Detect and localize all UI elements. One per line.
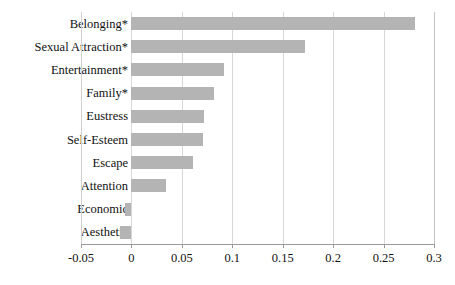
bar [131, 17, 414, 30]
axis-tick [81, 244, 82, 248]
bar-row [81, 128, 434, 151]
bar-row [81, 174, 434, 197]
bar-row [81, 198, 434, 221]
bar-row [81, 151, 434, 174]
bar-row [81, 105, 434, 128]
bar-row [81, 82, 434, 105]
bar [131, 87, 214, 100]
bar-row [81, 12, 434, 35]
x-tick-label: 0.1 [224, 250, 240, 266]
bar-row [81, 35, 434, 58]
bar-row [81, 58, 434, 81]
value-axis-labels: -0.0500.050.10.150.20.250.3 [0, 250, 455, 272]
bar [131, 40, 304, 53]
x-tick-label: 0.05 [171, 250, 193, 266]
x-tick-label: -0.05 [68, 250, 94, 266]
bar [125, 203, 131, 216]
plot-area [81, 12, 434, 244]
bar [131, 179, 165, 192]
axis-tick [131, 244, 132, 248]
bar [131, 110, 204, 123]
x-tick-label: 0.2 [325, 250, 341, 266]
bar [131, 63, 224, 76]
bar-chart: Belonging*Sexual Attraction*Entertainmen… [0, 0, 455, 285]
axis-tick [283, 244, 284, 248]
x-tick-label: 0 [128, 250, 134, 266]
bar [131, 133, 203, 146]
axis-tick [232, 244, 233, 248]
gridline-0.3 [434, 12, 435, 244]
x-tick-label: 0.25 [373, 250, 395, 266]
bar [120, 226, 131, 239]
axis-tick [182, 244, 183, 248]
x-tick-label: 0.3 [426, 250, 442, 266]
x-axis-line [81, 244, 435, 245]
axis-tick [333, 244, 334, 248]
axis-tick [434, 244, 435, 248]
bar [131, 156, 193, 169]
bar-row [81, 221, 434, 244]
x-tick-label: 0.15 [272, 250, 294, 266]
axis-tick [384, 244, 385, 248]
